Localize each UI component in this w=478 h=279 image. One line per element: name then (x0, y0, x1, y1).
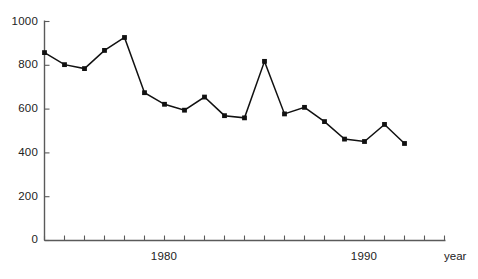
x-tick-label-1980: 1980 (134, 250, 194, 262)
data-point-marker (62, 62, 67, 67)
data-point-marker (42, 50, 47, 55)
data-point-marker (282, 112, 287, 117)
chart-plot-area (0, 0, 478, 279)
y-tick-label-600: 600 (4, 102, 38, 114)
line-chart: 1000 800 600 400 200 0 1980 1990 year (0, 0, 478, 279)
data-point-marker (162, 102, 167, 107)
data-point-marker (402, 141, 407, 146)
y-tick-label-400: 400 (4, 146, 38, 158)
data-point-marker (182, 108, 187, 113)
data-point-marker (122, 35, 127, 40)
y-tick-label-1000: 1000 (4, 15, 38, 27)
x-axis-title: year (444, 250, 466, 262)
y-tick-label-200: 200 (4, 190, 38, 202)
data-point-marker (382, 122, 387, 127)
data-point-marker (362, 139, 367, 144)
x-tick-label-1990: 1990 (334, 250, 394, 262)
data-point-marker (342, 137, 347, 142)
y-tick-label-0: 0 (4, 233, 38, 245)
y-tick-label-800: 800 (4, 58, 38, 70)
data-point-marker (82, 66, 87, 71)
data-point-marker (202, 95, 207, 100)
series-markers (42, 35, 407, 146)
data-point-marker (322, 119, 327, 124)
data-point-marker (242, 115, 247, 120)
data-point-marker (102, 48, 107, 53)
data-point-marker (302, 105, 307, 110)
data-point-marker (262, 59, 267, 64)
series-line-path (45, 37, 405, 143)
x-axis-ticks (45, 236, 445, 241)
data-point-marker (142, 90, 147, 95)
data-point-marker (222, 113, 227, 118)
